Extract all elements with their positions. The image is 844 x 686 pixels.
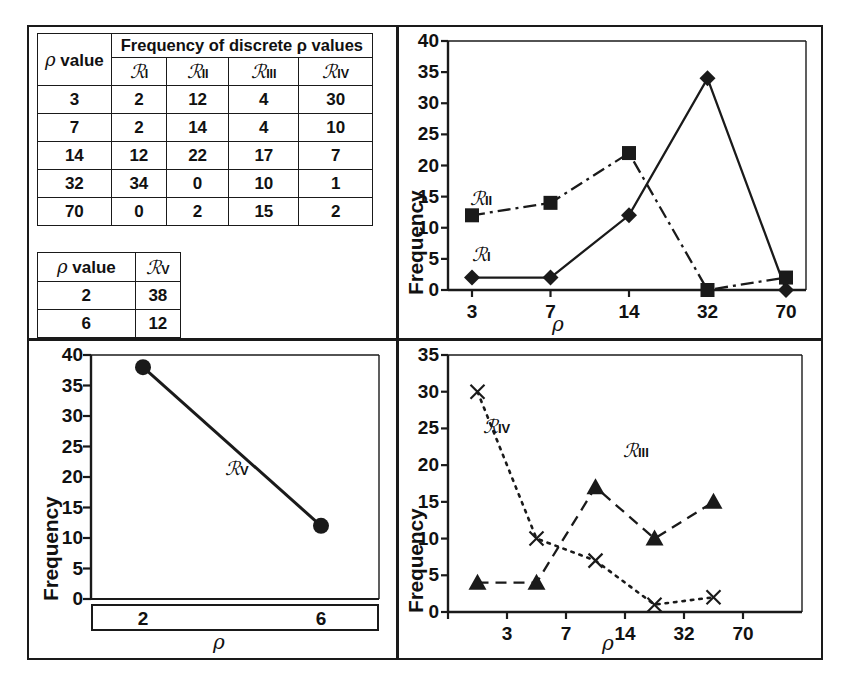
table-row: 141222177 bbox=[38, 142, 373, 170]
series-label-r3: ℛIII bbox=[623, 439, 649, 461]
cell-frequency-II: 22 bbox=[166, 142, 228, 170]
y-tick-label: 20 bbox=[398, 454, 439, 476]
table-header-r3: ℛIII bbox=[229, 58, 299, 86]
table-header-r4: ℛIV bbox=[299, 58, 373, 86]
y-tick-label: 10 bbox=[398, 528, 439, 550]
cell-frequency-III: 4 bbox=[229, 114, 299, 142]
chart-bottom-right: Frequency ρ 05101520253035 37143270 ℛIV … bbox=[398, 341, 822, 659]
cell-frequency-IV: 7 bbox=[299, 142, 373, 170]
y-tick-label: 5 bbox=[39, 558, 83, 580]
y-tick-label: 15 bbox=[398, 491, 439, 513]
script-r-glyph: ℛ bbox=[251, 60, 266, 82]
table-header-rho-value: ρ value bbox=[38, 34, 112, 86]
table-row: 612 bbox=[38, 310, 181, 338]
chart-bottom-left: Frequency ρ 0510152025303540 26 ℛV bbox=[29, 341, 395, 659]
cell-frequency-II: 12 bbox=[166, 86, 228, 114]
cell-rho-value: 6 bbox=[38, 310, 136, 338]
table-row: 3212430 bbox=[38, 86, 373, 114]
cell-rho-value: 7 bbox=[38, 114, 112, 142]
frequency-table-main: ρ value Frequency of discrete ρ values ℛ… bbox=[37, 33, 373, 226]
y-tick-label: 30 bbox=[398, 381, 439, 403]
y-tick-label: 0 bbox=[398, 279, 439, 301]
cell-frequency-I: 12 bbox=[111, 142, 166, 170]
cell-frequency-III: 10 bbox=[229, 170, 299, 198]
x-tick-label: 7 bbox=[544, 623, 588, 645]
chart-top-right-plot bbox=[398, 27, 822, 337]
cell-frequency-II: 0 bbox=[166, 170, 228, 198]
y-tick-label: 15 bbox=[398, 186, 439, 208]
y-tick-label: 35 bbox=[39, 375, 83, 397]
y-tick-label: 5 bbox=[398, 564, 439, 586]
figure-root: ρ value Frequency of discrete ρ values ℛ… bbox=[0, 0, 844, 686]
table-v-header-rv: ℛV bbox=[135, 253, 180, 282]
cell-frequency-III: 4 bbox=[229, 86, 299, 114]
cell-frequency-IV: 1 bbox=[299, 170, 373, 198]
table-main-body: 32124307214410141222177323401017002152 bbox=[38, 86, 373, 226]
cell-frequency-IV: 30 bbox=[299, 86, 373, 114]
rho-value-label: value bbox=[68, 258, 116, 277]
x-tick-label: 14 bbox=[603, 623, 647, 645]
table-header-span-title: Frequency of discrete ρ values bbox=[111, 34, 372, 58]
cell-frequency-V: 38 bbox=[135, 282, 180, 310]
y-tick-label: 0 bbox=[398, 601, 439, 623]
cell-frequency-II: 2 bbox=[166, 198, 228, 226]
cell-rho-value: 2 bbox=[38, 282, 136, 310]
y-tick-label: 25 bbox=[398, 123, 439, 145]
y-axis-title: Frequency bbox=[404, 509, 428, 613]
x-tick-label: 70 bbox=[721, 623, 765, 645]
cell-rho-value: 32 bbox=[38, 170, 112, 198]
x-tick-label: 32 bbox=[686, 301, 730, 323]
table-row: 7214410 bbox=[38, 114, 373, 142]
y-tick-label: 35 bbox=[398, 344, 439, 366]
table-row: 7002152 bbox=[38, 198, 373, 226]
y-tick-label: 25 bbox=[39, 436, 83, 458]
table-v-header-rho-value: ρ value bbox=[38, 253, 136, 282]
cell-rho-value: 3 bbox=[38, 86, 112, 114]
frequency-table-rv: ρ value ℛV 238612 bbox=[37, 252, 181, 338]
rho-value-label: value bbox=[56, 51, 104, 70]
cell-frequency-III: 15 bbox=[229, 198, 299, 226]
y-tick-label: 25 bbox=[398, 417, 439, 439]
x-tick-label: 7 bbox=[529, 301, 573, 323]
x-tick-label: 2 bbox=[121, 608, 165, 630]
cell-frequency-II: 14 bbox=[166, 114, 228, 142]
script-r-glyph: ℛ bbox=[322, 60, 337, 82]
table-header-r2: ℛII bbox=[166, 58, 228, 86]
y-tick-label: 30 bbox=[39, 405, 83, 427]
x-tick-label: 6 bbox=[299, 608, 343, 630]
x-axis-title: ρ bbox=[199, 630, 239, 654]
y-tick-label: 40 bbox=[398, 30, 439, 52]
y-tick-label: 5 bbox=[398, 248, 439, 270]
x-tick-label: 32 bbox=[662, 623, 706, 645]
cell-frequency-IV: 2 bbox=[299, 198, 373, 226]
x-tick-label: 14 bbox=[607, 301, 651, 323]
chart-bottom-right-plot bbox=[398, 341, 822, 659]
table-header-r1: ℛI bbox=[111, 58, 166, 86]
cell-frequency-I: 34 bbox=[111, 170, 166, 198]
cell-frequency-III: 17 bbox=[229, 142, 299, 170]
cell-frequency-I: 2 bbox=[111, 86, 166, 114]
y-tick-label: 10 bbox=[398, 217, 439, 239]
script-r-glyph: ℛ bbox=[130, 60, 145, 82]
series-label-r5: ℛV bbox=[225, 457, 249, 479]
table-row: 238 bbox=[38, 282, 181, 310]
y-tick-label: 20 bbox=[39, 466, 83, 488]
x-tick-label: 70 bbox=[764, 301, 808, 323]
cell-rho-value: 70 bbox=[38, 198, 112, 226]
y-tick-label: 35 bbox=[398, 61, 439, 83]
cell-rho-value: 14 bbox=[38, 142, 112, 170]
series-label-r2: ℛII bbox=[470, 187, 492, 209]
table-v-header-row: ρ value ℛV bbox=[38, 253, 181, 282]
table-row: 32340101 bbox=[38, 170, 373, 198]
cell-frequency-I: 2 bbox=[111, 114, 166, 142]
y-tick-label: 10 bbox=[39, 527, 83, 549]
y-tick-label: 20 bbox=[398, 155, 439, 177]
cell-frequency-IV: 10 bbox=[299, 114, 373, 142]
cell-frequency-V: 12 bbox=[135, 310, 180, 338]
rho-symbol: ρ bbox=[45, 49, 56, 70]
table-header-row-top: ρ value Frequency of discrete ρ values bbox=[38, 34, 373, 58]
series-label-r4: ℛIV bbox=[483, 415, 510, 437]
x-tick-label: 3 bbox=[485, 623, 529, 645]
y-tick-label: 30 bbox=[398, 92, 439, 114]
y-tick-label: 0 bbox=[39, 588, 83, 610]
